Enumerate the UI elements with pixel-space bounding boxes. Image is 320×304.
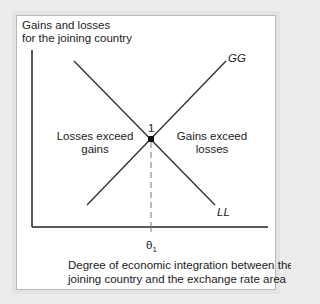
threshold-label: θ1 [146,239,157,256]
x-axis-label-line2: joining country and the exchange rate ar… [68,273,286,286]
gg-curve-label: GG [228,52,246,65]
x-axis-label-line1: Degree of economic integration between t… [68,259,291,272]
region-right-line2: losses [172,143,252,156]
ll-curve-label: LL [217,206,230,219]
region-left-line2: gains [50,143,140,156]
intersection-label: 1 [148,122,154,135]
region-left-line1: Losses exceed [50,130,140,143]
y-axis-label-line2: for the joining country [22,32,132,45]
theta-subscript: 1 [152,245,156,254]
region-right-label: Gains exceed losses [172,130,252,156]
region-right-line1: Gains exceed [172,130,252,143]
region-left-label: Losses exceed gains [50,130,140,156]
intersection-point [148,136,154,142]
y-axis-label-line1: Gains and losses [22,19,110,32]
